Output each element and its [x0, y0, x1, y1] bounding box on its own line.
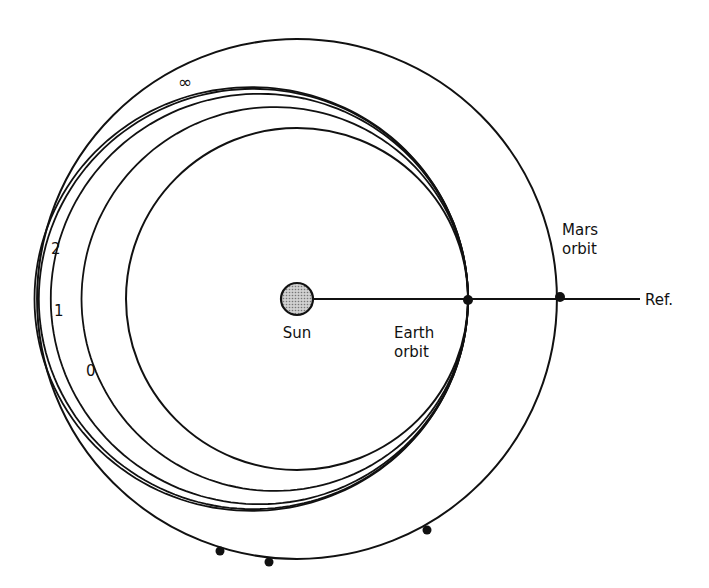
earth-orbit-label: orbit: [394, 343, 429, 361]
sun-icon: [281, 283, 313, 315]
reference-label: Ref.: [645, 291, 673, 309]
transfer-orbit-label-infinity: ∞: [178, 72, 192, 92]
arrival-dot: [265, 558, 274, 567]
transfer-orbit-label-0: 0: [86, 362, 96, 380]
transfer-orbit-label-2: 2: [51, 240, 61, 258]
mars-orbit-label: Mars: [562, 221, 598, 239]
arrival-dot: [423, 526, 432, 535]
arrival-dot: [216, 547, 225, 556]
sun-label: Sun: [283, 324, 312, 342]
orbit-diagram: Sun Earth orbit Mars orbit Ref. 0 1 2 ∞: [0, 0, 709, 588]
earth-orbit-label: Earth: [394, 324, 434, 342]
mars-orbit-label: orbit: [562, 240, 597, 258]
transfer-orbit-label-1: 1: [54, 302, 64, 320]
mars-position-dot: [555, 292, 565, 302]
earth-departure-dot: [463, 295, 473, 305]
